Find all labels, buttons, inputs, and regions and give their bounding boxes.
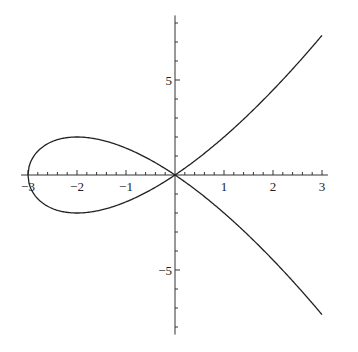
x-tick-label: 3 xyxy=(319,179,326,194)
x-tick-label: −1 xyxy=(119,179,133,194)
y-tick-label: −5 xyxy=(158,263,172,278)
x-tick-label: −3 xyxy=(21,179,35,194)
x-tick-label: 2 xyxy=(270,179,277,194)
x-tick-label: 1 xyxy=(221,179,228,194)
plot-area: −3−2−11235−5 xyxy=(0,0,358,352)
y-tick-label: 5 xyxy=(166,73,173,88)
x-tick-label: −2 xyxy=(70,179,84,194)
